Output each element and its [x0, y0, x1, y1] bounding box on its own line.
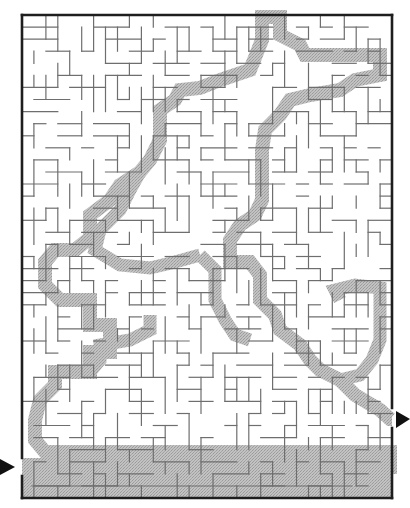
maze-board [0, 0, 410, 508]
exit-arrow-icon [396, 411, 410, 428]
entrance-arrow-icon [0, 459, 15, 475]
